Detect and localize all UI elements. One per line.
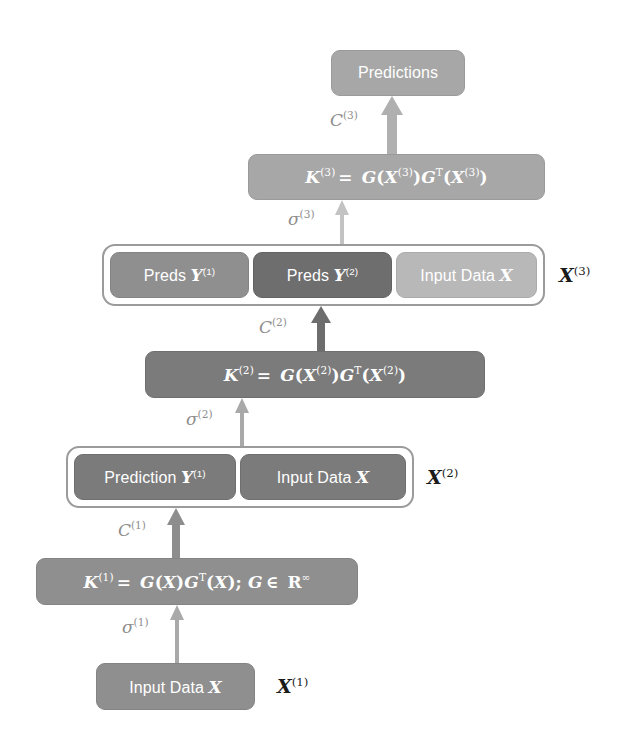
node-k3-formula: K(3)= G(X(3))GT(X(3)) — [305, 167, 488, 187]
annotation-x2: X(2) — [427, 466, 458, 488]
node-k3[interactable]: K(3)= G(X(3))GT(X(3)) — [248, 154, 545, 200]
k2-g1: G — [280, 365, 295, 385]
k1-semicolon: ; — [236, 572, 242, 592]
x3-cell1-var: Y — [334, 265, 346, 285]
k3-x2: X — [451, 167, 464, 187]
node-k1-formula: K(1)= G(X)GT(X); G∈ R∞ — [84, 572, 311, 592]
node-predictions-label: Predictions — [358, 64, 438, 82]
edge-label-sigma2: σ(2) — [186, 409, 213, 429]
node-x2-cell-input-data-label: Input Data X — [277, 467, 370, 487]
edge-label-c3-sup: (3) — [343, 109, 358, 121]
node-x2-cell-prediction-y1-label: Prediction Y(1) — [104, 467, 205, 487]
edge-label-sigma3-symbol: σ — [288, 209, 300, 229]
k2-x1: X — [303, 365, 316, 385]
annotation-x1: X(1) — [277, 675, 308, 697]
node-x2-cell-prediction-y1[interactable]: Prediction Y(1) — [74, 454, 236, 500]
k1-g2: G — [184, 572, 199, 592]
edge-label-c1-symbol: C — [118, 520, 131, 540]
edge-label-c1-sup: (1) — [131, 519, 146, 531]
k3-x1: X — [385, 167, 398, 187]
k1-x1: X — [163, 572, 176, 592]
diagram-canvas: Predictions C(3) K(3)= G(X(3))GT(X(3)) σ… — [0, 0, 623, 745]
node-x3-cell-preds-y2-label: Preds Y(2) — [287, 265, 359, 285]
edge-label-c2-sup: (2) — [272, 316, 287, 328]
arrow-c1 — [164, 508, 188, 558]
x2-cell0-var-sup: (1) — [193, 468, 205, 479]
annotation-x1-base: X — [277, 675, 292, 697]
node-k2[interactable]: K(2)= G(X(2))GT(X(2)) — [145, 351, 485, 398]
k1-g2-sup: T — [199, 571, 206, 583]
edge-label-sigma1-symbol: σ — [122, 617, 134, 637]
k2-x2-sup: (2) — [383, 364, 398, 376]
x3-cell0-var: Y — [191, 265, 203, 285]
k2-lhs: K — [224, 365, 239, 385]
node-k1[interactable]: K(1)= G(X)GT(X); G∈ R∞ — [36, 558, 358, 605]
edge-label-c2: C(2) — [259, 317, 287, 337]
k1-g1: G — [140, 572, 155, 592]
arrow-c3 — [378, 96, 406, 154]
arrow-sigma1 — [167, 605, 187, 663]
x3-cell1-var-sup: (2) — [346, 266, 358, 277]
k2-x2: X — [370, 365, 383, 385]
k2-x1-sup: (2) — [316, 364, 331, 376]
edge-label-sigma2-symbol: σ — [186, 409, 198, 429]
x2-cell0-var: Y — [181, 467, 193, 487]
k1-member-op: ∈ — [263, 572, 282, 592]
node-x3-cell-preds-y1-label: Preds Y(1) — [144, 265, 216, 285]
k1-member-sup: ∞ — [302, 571, 311, 583]
node-predictions[interactable]: Predictions — [331, 50, 465, 96]
x3-cell2-var: X — [500, 265, 513, 285]
node-x1-input-data-label: Input Data X — [129, 677, 222, 697]
annotation-x3-base: X — [559, 264, 574, 286]
x3-cell1-prefix: Preds — [287, 267, 329, 284]
edge-label-sigma3: σ(3) — [288, 209, 315, 229]
x3-cell2-prefix: Input Data — [420, 267, 495, 284]
k3-lhs: K — [305, 167, 320, 187]
x2-cell0-prefix: Prediction — [104, 469, 176, 486]
k1-member-g: G — [248, 572, 263, 592]
k3-g2-sup: T — [436, 166, 443, 178]
k3-equals: = — [335, 167, 355, 187]
arrow-c2 — [308, 306, 334, 352]
k3-x2-sup: (3) — [464, 166, 479, 178]
edge-label-c3: C(3) — [330, 110, 358, 130]
k1-x2: X — [214, 572, 227, 592]
node-x3-cell-preds-y2[interactable]: Preds Y(2) — [253, 252, 392, 298]
x2-cell1-var: X — [356, 467, 369, 487]
annotation-x1-sup: (1) — [292, 675, 309, 689]
edge-label-sigma2-sup: (2) — [198, 408, 213, 420]
x1-cell0-prefix: Input Data — [129, 679, 204, 696]
x3-cell0-prefix: Preds — [144, 267, 186, 284]
node-x1-input-data[interactable]: Input Data X — [96, 663, 255, 710]
k2-lhs-sup: (2) — [239, 364, 254, 376]
k2-g2: G — [340, 365, 355, 385]
k3-g1: G — [362, 167, 377, 187]
node-x3-cell-input-data[interactable]: Input Data X — [396, 252, 537, 298]
edge-label-sigma3-sup: (3) — [300, 208, 315, 220]
annotation-x2-sup: (2) — [442, 466, 459, 480]
node-x3-cell-input-data-label: Input Data X — [420, 265, 513, 285]
edge-label-c3-symbol: C — [330, 110, 343, 130]
node-x3-cell-preds-y1[interactable]: Preds Y(1) — [110, 252, 249, 298]
annotation-x2-base: X — [427, 466, 442, 488]
k1-member-space: R — [287, 572, 301, 592]
k1-equals: = — [114, 572, 134, 592]
k3-lhs-sup: (3) — [320, 166, 335, 178]
x2-cell1-prefix: Input Data — [277, 469, 352, 486]
annotation-x3-sup: (3) — [574, 264, 591, 278]
edge-label-c2-symbol: C — [259, 317, 272, 337]
edge-label-sigma1-sup: (1) — [134, 616, 149, 628]
k1-lhs-sup: (1) — [98, 571, 113, 583]
annotation-x3: X(3) — [559, 264, 590, 286]
x1-cell0-var: X — [209, 677, 222, 697]
k3-g2: G — [421, 167, 436, 187]
node-x2-cell-input-data[interactable]: Input Data X — [240, 454, 406, 500]
k2-equals: = — [254, 365, 274, 385]
node-k2-formula: K(2)= G(X(2))GT(X(2)) — [224, 365, 407, 385]
edge-label-c1: C(1) — [118, 520, 146, 540]
k3-x1-sup: (3) — [398, 166, 413, 178]
edge-label-sigma1: σ(1) — [122, 617, 149, 637]
k1-lhs: K — [84, 572, 99, 592]
x3-cell0-var-sup: (1) — [203, 266, 215, 277]
